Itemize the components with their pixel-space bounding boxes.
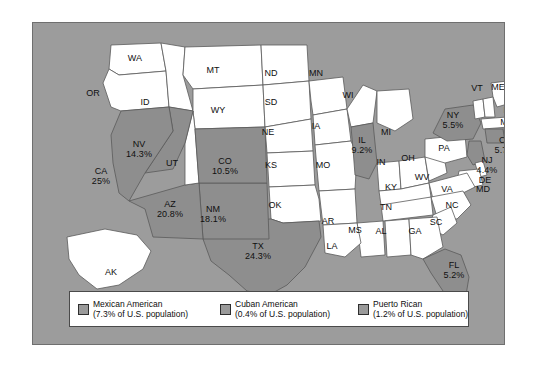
state-abbr: WY xyxy=(211,106,226,116)
legend-swatch-icon xyxy=(220,304,231,315)
state-abbr: MO xyxy=(316,161,331,171)
state-label-al: AL xyxy=(375,227,386,237)
state-abbr: OH xyxy=(401,154,415,164)
state-label-wi: WI xyxy=(342,91,353,101)
state-label-mt: MT xyxy=(206,66,219,76)
state-shape-al xyxy=(385,219,411,257)
legend-item-title: Mexican American xyxy=(93,299,188,309)
legend-item-text: Cuban American (0.4% of U.S. population) xyxy=(235,299,330,319)
state-percentage: 14.3% xyxy=(126,149,152,159)
state-label-nc: NC xyxy=(445,201,458,211)
state-label-wa: WA xyxy=(128,54,142,64)
state-abbr: KY xyxy=(385,183,397,193)
state-label-ms: MS xyxy=(348,226,362,236)
figure-root: WAORIDMTWYNDSDNEKSMNIAMOWIIL9.2%MIINOHKY… xyxy=(0,0,535,371)
state-label-fl: FL5.2% xyxy=(444,261,465,280)
state-abbr: KS xyxy=(265,161,277,171)
state-percentage: 25% xyxy=(92,176,110,186)
state-label-ar: AR xyxy=(322,217,335,227)
state-shape-ak xyxy=(67,229,151,289)
state-abbr: GA xyxy=(408,227,421,237)
legend-item-title: Cuban American xyxy=(235,299,330,309)
state-label-ks: KS xyxy=(265,161,277,171)
state-abbr: MD xyxy=(476,185,490,195)
state-label-vt: VT xyxy=(471,84,483,94)
state-shape-nh xyxy=(483,97,495,117)
legend: Mexican American (7.3% of U.S. populatio… xyxy=(69,291,469,327)
state-abbr: NH xyxy=(503,106,505,116)
state-percentage: 24.3% xyxy=(245,251,271,261)
state-abbr: MT xyxy=(206,66,219,76)
state-label-co: CO10.5% xyxy=(212,157,238,176)
state-abbr: WA xyxy=(128,54,142,64)
state-abbr: MA xyxy=(500,118,505,128)
state-abbr: MS xyxy=(348,226,362,236)
state-abbr: VA xyxy=(441,185,453,195)
state-abbr: NE xyxy=(262,128,275,138)
state-label-ny: NY5.5% xyxy=(443,111,464,130)
legend-item-text: Puerto Rican (1.2% of U.S. population) xyxy=(373,299,468,319)
state-abbr: IN xyxy=(376,158,385,168)
state-percentage: 5.7% xyxy=(495,145,505,155)
state-abbr: TN xyxy=(380,203,392,213)
state-label-la: LA xyxy=(326,242,337,252)
state-percentage: 20.8% xyxy=(157,209,183,219)
legend-item-subtitle: (7.3% of U.S. population) xyxy=(93,309,188,319)
state-label-nm: NM18.1% xyxy=(200,205,226,224)
legend-item-title: Puerto Rican xyxy=(373,299,468,309)
state-shape-mn xyxy=(309,77,347,115)
state-abbr: UT xyxy=(166,159,178,169)
state-label-pa: PA xyxy=(438,144,450,154)
state-shape-wy xyxy=(193,85,265,129)
state-label-ne: NE xyxy=(262,128,275,138)
state-label-sd: SD xyxy=(265,98,278,108)
state-abbr: WI xyxy=(342,91,353,101)
state-label-ak: AK xyxy=(105,268,117,278)
legend-item-mexican-american: Mexican American (7.3% of U.S. populatio… xyxy=(70,299,214,319)
state-abbr: ND xyxy=(264,69,277,79)
state-percentage: 4.4% xyxy=(477,165,498,175)
state-abbr: PA xyxy=(438,144,450,154)
state-abbr: SD xyxy=(265,98,278,108)
state-label-nv: NV14.3% xyxy=(126,140,152,159)
state-percentage: 9.2% xyxy=(352,145,373,155)
state-label-va: VA xyxy=(441,185,453,195)
state-label-ky: KY xyxy=(385,183,397,193)
state-shape-nd xyxy=(261,45,309,85)
state-label-ma: MA xyxy=(500,118,505,128)
legend-item-subtitle: (1.2% of U.S. population) xyxy=(373,309,468,319)
state-label-nd: ND xyxy=(264,69,277,79)
state-abbr: ID xyxy=(140,98,149,108)
state-abbr: SC xyxy=(430,218,443,228)
state-label-mn: MN xyxy=(309,69,323,79)
state-abbr: WV xyxy=(415,173,430,183)
state-label-in: IN xyxy=(376,158,385,168)
state-label-id: ID xyxy=(140,98,149,108)
state-label-wy: WY xyxy=(211,106,226,116)
state-label-mo: MO xyxy=(316,161,331,171)
state-label-il: IL9.2% xyxy=(352,136,373,155)
state-label-nh: NH xyxy=(503,106,505,116)
state-label-md: MD xyxy=(476,185,490,195)
state-label-ok: OK xyxy=(268,201,281,211)
state-abbr: NC xyxy=(445,201,458,211)
state-label-mi: MI xyxy=(381,128,391,138)
state-percentage: 10.5% xyxy=(212,166,238,176)
state-label-ia: IA xyxy=(312,122,321,132)
state-label-or: OR xyxy=(86,89,100,99)
legend-item-subtitle: (0.4% of U.S. population) xyxy=(235,309,330,319)
state-label-wv: WV xyxy=(415,173,430,183)
state-abbr: VT xyxy=(471,84,483,94)
state-label-ga: GA xyxy=(408,227,421,237)
state-percentage: 5.5% xyxy=(443,120,464,130)
state-shape-mt xyxy=(183,45,263,89)
legend-item-puerto-rican: Puerto Rican (1.2% of U.S. population) xyxy=(352,299,468,319)
state-percentage: 18.1% xyxy=(200,214,226,224)
legend-item-cuban-american: Cuban American (0.4% of U.S. population) xyxy=(214,299,352,319)
state-label-tn: TN xyxy=(380,203,392,213)
state-label-ca: CA25% xyxy=(92,167,110,186)
state-abbr: AL xyxy=(375,227,386,237)
state-label-tx: TX24.3% xyxy=(245,242,271,261)
state-abbr: MI xyxy=(381,128,391,138)
state-abbr: AK xyxy=(105,268,117,278)
